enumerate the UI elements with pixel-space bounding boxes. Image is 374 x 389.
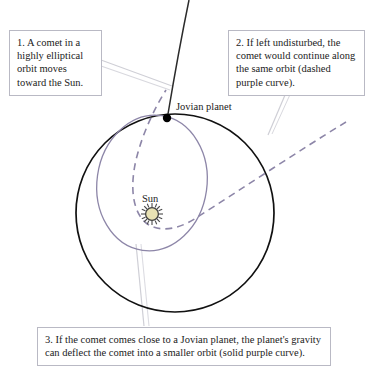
callout-undisturbed-orbit: 2. If left undisturbed, the comet would … xyxy=(228,30,365,96)
callout-gravity-deflection: 3. If the comet comes close to a Jovian … xyxy=(37,327,331,366)
original-orbit-dashed-path xyxy=(133,90,346,229)
leader-line-callout-1 xyxy=(101,60,172,90)
sun-label: Sun xyxy=(142,193,158,204)
incoming-comet-path xyxy=(168,0,189,114)
sun-icon xyxy=(141,203,163,225)
leader-line-callout-3 xyxy=(136,244,149,326)
jovian-planet-orbit-circle xyxy=(76,114,274,312)
deflected-orbit-ellipse xyxy=(88,108,216,258)
jovian-planet-label: Jovian planet xyxy=(176,101,232,112)
jovian-planet-dot xyxy=(163,114,171,122)
callout-comet-approaches-sun: 1. A comet in a highly elliptical orbit … xyxy=(9,30,102,96)
diagram-stage: Jovian planet Sun 1. A comet in a highly… xyxy=(0,0,374,389)
